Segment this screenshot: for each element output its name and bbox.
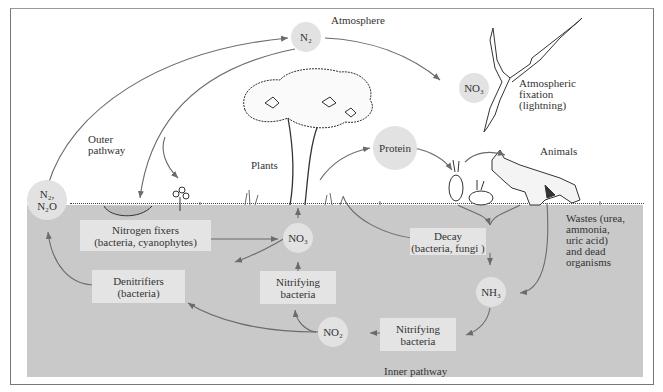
nitrifying-bacteria-lower-box: Nitrifying bacteria — [380, 318, 456, 351]
no2-node: NO₂ — [318, 317, 348, 347]
no3-atmosphere-node: NO₃ — [459, 73, 489, 103]
inner-pathway-label: Inner pathway — [384, 366, 447, 377]
no3-soil-node: NO₃ — [283, 223, 313, 253]
n2-atmosphere-node: N₂ — [291, 22, 321, 52]
outer-pathway-label: Outer pathway — [88, 134, 125, 156]
plants-label: Plants — [251, 160, 278, 171]
n2-n2o-node: N₂, N₂O — [27, 180, 67, 220]
protein-node: Protein — [373, 126, 417, 170]
nitrifying-bacteria-upper-box: Nitrifying bacteria — [260, 271, 336, 304]
nitrogen-fixers-box: Nitrogen fixers (bacteria, cyanophytes) — [80, 220, 211, 251]
wastes-label: Wastes (urea, ammonia, uric acid) and de… — [566, 213, 625, 268]
denitrifiers-box: Denitrifiers (bacteria) — [92, 270, 185, 303]
decay-box: Decay (bacteria, fungi ) — [410, 228, 486, 255]
atmosphere-label: Atmosphere — [331, 15, 385, 26]
ground-surface — [70, 203, 644, 207]
diagram-frame — [10, 8, 654, 220]
atmospheric-fixation-label: Atmospheric fixation (lightning) — [519, 78, 576, 111]
animals-label: Animals — [540, 146, 577, 157]
nh3-node: NH₃ — [476, 277, 506, 307]
